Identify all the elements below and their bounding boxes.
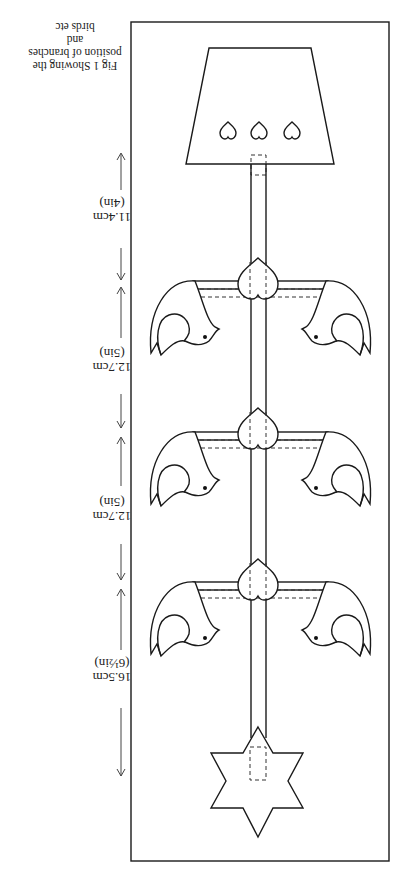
heart-cutout-icon (284, 122, 300, 139)
heart-cutout-icon (220, 122, 236, 139)
shade-base (186, 48, 334, 175)
dimension-arrows (117, 153, 125, 776)
center-pole (251, 164, 266, 738)
branch-2 (150, 408, 370, 506)
branch-1 (150, 258, 370, 355)
heart-cutout-icon (251, 122, 267, 139)
diagram-canvas (0, 0, 408, 890)
branch-3 (150, 559, 370, 656)
star-topper (211, 727, 303, 837)
